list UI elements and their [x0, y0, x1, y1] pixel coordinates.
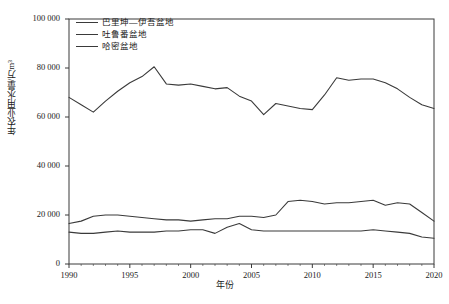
legend-label: 吐鲁番盆地 — [102, 28, 147, 40]
y-tick-label: 20 000 — [4, 209, 60, 219]
y-tick-label: 60 000 — [4, 111, 60, 121]
y-tick-label: 100 000 — [4, 13, 60, 23]
agricultural-water-use-line-chart: 年农业用水量/万m³ 年份 020 00040 00060 00080 0001… — [0, 0, 449, 304]
x-tick-label: 1995 — [105, 270, 155, 280]
legend-label: 巴里坤—伊吾盆地 — [102, 16, 174, 28]
legend-item-2: 哈密盆地 — [76, 40, 174, 52]
chart-canvas — [0, 0, 449, 304]
x-tick-label: 2000 — [166, 270, 216, 280]
y-tick-label: 80 000 — [4, 62, 60, 72]
legend-line-icon — [76, 46, 98, 47]
plot-area — [69, 19, 434, 264]
x-tick-label: 2010 — [287, 270, 337, 280]
y-tick-label: 0 — [4, 258, 60, 268]
legend-item-1: 吐鲁番盆地 — [76, 28, 174, 40]
legend-line-icon — [76, 22, 98, 23]
x-tick-label: 2015 — [348, 270, 398, 280]
x-axis-ticks — [69, 264, 434, 268]
x-tick-label: 1990 — [44, 270, 94, 280]
legend-item-0: 巴里坤—伊吾盆地 — [76, 16, 174, 28]
legend-line-icon — [76, 34, 98, 35]
legend-label: 哈密盆地 — [102, 40, 138, 52]
y-tick-label: 40 000 — [4, 160, 60, 170]
x-tick-label: 2005 — [227, 270, 277, 280]
chart-legend: 巴里坤—伊吾盆地 吐鲁番盆地 哈密盆地 — [76, 16, 174, 52]
y-axis-ticks — [65, 19, 69, 264]
x-tick-label: 2020 — [409, 270, 449, 280]
plot-frame — [69, 19, 434, 264]
